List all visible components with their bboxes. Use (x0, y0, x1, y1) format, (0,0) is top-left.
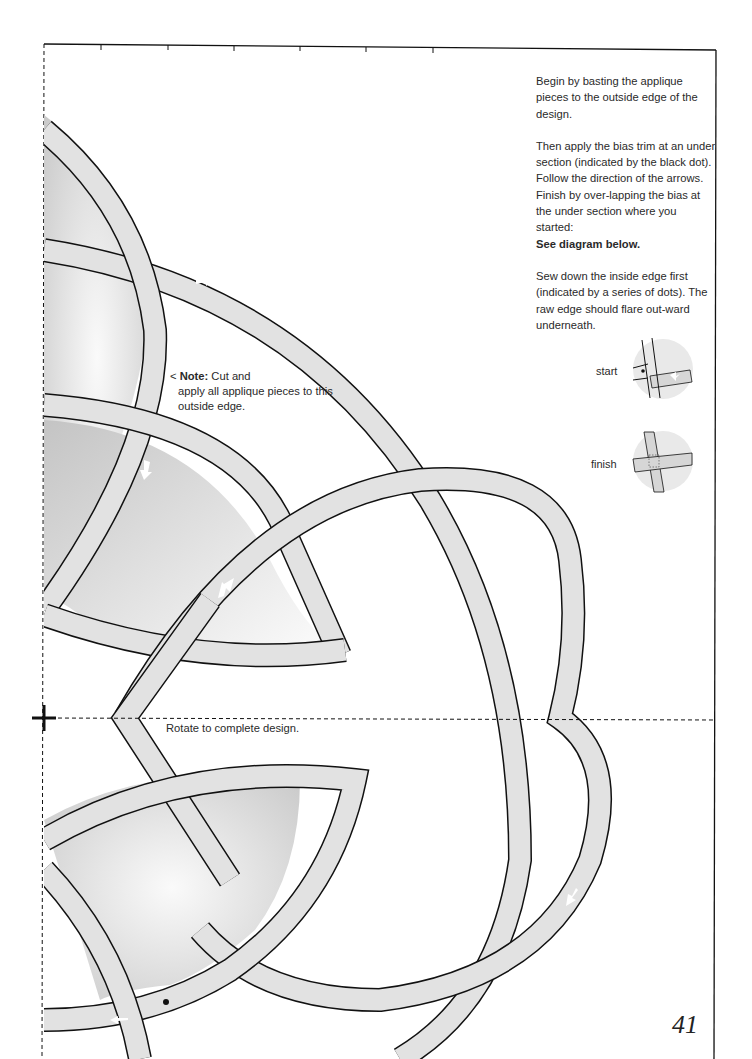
instructions-panel: Begin by basting the applique pieces to … (536, 73, 716, 349)
applique-artwork (44, 115, 600, 1059)
note-prefix: < (170, 370, 180, 382)
note-line1: Cut and (208, 370, 250, 382)
page-number: 41 (672, 1010, 698, 1040)
instruction-paragraph-1: Begin by basting the applique pieces to … (536, 73, 716, 122)
finish-label: finish (591, 458, 617, 470)
instruction-paragraph-3: Sew down the inside edge first (indicate… (536, 268, 716, 333)
note-label: Note: (180, 370, 209, 382)
start-label: start (596, 365, 617, 377)
center-plus-icon (32, 705, 56, 731)
note-line2: apply all applique pieces to this outsid… (170, 384, 370, 414)
finish-diagram-icon (633, 431, 693, 492)
instruction-paragraph-2: Then apply the bias trim at an under sec… (536, 138, 716, 252)
rotate-instruction: Rotate to complete design. (166, 722, 299, 734)
rotation-axis (44, 718, 716, 720)
start-dot (163, 999, 169, 1005)
see-diagram-label: See diagram below. (536, 238, 640, 250)
note-callout: < Note: Cut and apply all applique piece… (170, 369, 370, 414)
